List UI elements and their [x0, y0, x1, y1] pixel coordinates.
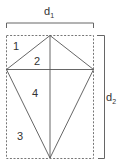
region-label-1: 1	[13, 40, 19, 52]
d1-bracket	[7, 23, 94, 28]
region-label-2: 2	[34, 55, 40, 67]
region-label-4: 4	[32, 87, 38, 99]
d2-label: d2	[106, 91, 116, 105]
d2-bracket	[97, 36, 105, 159]
kite-diagram: d1 d2 1 2 3 4	[0, 0, 120, 160]
region-label-3: 3	[17, 130, 23, 142]
d1-label: d1	[44, 5, 54, 19]
